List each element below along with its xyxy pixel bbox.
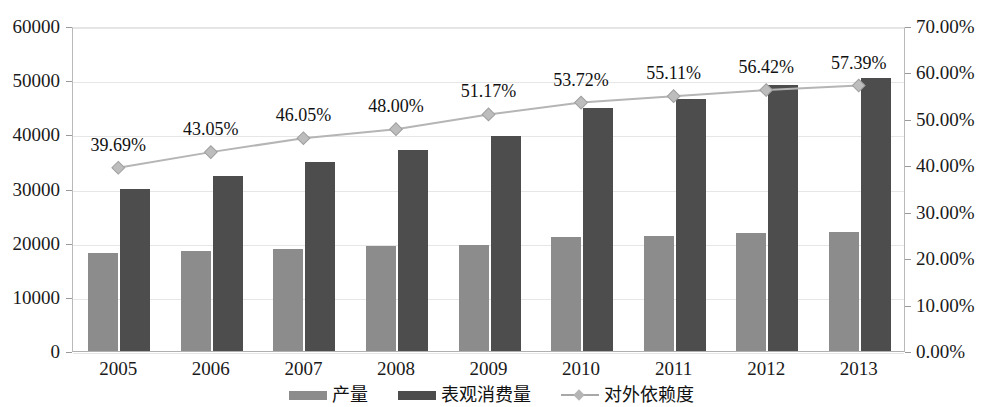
bar-prod-2011 — [644, 236, 674, 351]
right-axis-tick-mark — [905, 259, 911, 260]
gridline — [73, 28, 904, 29]
bar-prod-2006 — [181, 251, 211, 351]
right-axis-tick-mark — [905, 213, 911, 214]
right-axis-tick-mark — [905, 352, 911, 353]
right-axis-tick-mark — [905, 166, 911, 167]
data-label-2008: 48.00% — [351, 97, 441, 115]
category-label-2006: 2006 — [165, 359, 258, 379]
category-label-2010: 2010 — [535, 359, 628, 379]
right-axis-tick-label: 60.00% — [916, 63, 975, 82]
left-axis-tick-mark — [66, 298, 72, 299]
data-label-2007: 46.05% — [258, 106, 348, 124]
bar-prod-2008 — [366, 246, 396, 351]
category-label-2012: 2012 — [720, 359, 813, 379]
data-label-2013: 57.39% — [814, 54, 904, 72]
left-axis-tick-mark — [66, 352, 72, 353]
left-axis-tick-label: 20000 — [13, 234, 61, 253]
bar-prod-2010 — [551, 237, 581, 351]
left-axis-tick-label: 40000 — [13, 125, 61, 144]
right-axis-tick-label: 50.00% — [916, 110, 975, 129]
category-label-2009: 2009 — [442, 359, 535, 379]
category-label-2007: 2007 — [257, 359, 350, 379]
legend-item-dependency[interactable]: 对外依赖度 — [561, 385, 694, 405]
legend-swatch-icon-production — [289, 391, 327, 400]
left-axis-tick-mark — [66, 81, 72, 82]
left-axis-tick-mark — [66, 27, 72, 28]
left-axis-tick-label: 10000 — [13, 288, 61, 307]
bar-cons-2013 — [861, 78, 891, 351]
bar-cons-2010 — [583, 108, 613, 351]
right-axis-tick-label: 40.00% — [916, 156, 975, 175]
left-axis-tick-mark — [66, 244, 72, 245]
chart-legend: 产量 表观消费量 对外依赖度 — [0, 385, 982, 405]
bar-cons-2007 — [305, 162, 335, 351]
right-axis-tick-mark — [905, 27, 911, 28]
right-axis-tick-label: 20.00% — [916, 249, 975, 268]
bar-cons-2012 — [768, 85, 798, 351]
legend-swatch-icon-consumption — [398, 391, 436, 400]
bar-prod-2013 — [829, 232, 859, 351]
legend-label-dependency: 对外依赖度 — [604, 385, 694, 405]
gridline — [73, 353, 904, 354]
chart-container: 0100002000030000400005000060000 0.00%10.… — [0, 0, 982, 407]
left-axis-tick-mark — [66, 190, 72, 191]
bar-cons-2006 — [213, 176, 243, 351]
data-label-2006: 43.05% — [166, 120, 256, 138]
left-axis-tick-label: 30000 — [13, 180, 61, 199]
legend-label-production: 产量 — [332, 385, 368, 405]
bar-prod-2009 — [459, 245, 489, 351]
right-axis-tick-label: 10.00% — [916, 296, 975, 315]
category-label-2005: 2005 — [72, 359, 165, 379]
right-axis-tick-mark — [905, 73, 911, 74]
right-axis-tick-mark — [905, 120, 911, 121]
left-axis-tick-mark — [66, 135, 72, 136]
legend-item-consumption[interactable]: 表观消费量 — [398, 385, 531, 405]
data-label-2010: 53.72% — [536, 71, 626, 89]
right-axis-tick-mark — [905, 306, 911, 307]
data-label-2005: 39.69% — [73, 136, 163, 154]
bar-cons-2011 — [676, 99, 706, 351]
left-axis-tick-label: 50000 — [13, 71, 61, 90]
left-axis-tick-label: 60000 — [13, 17, 61, 36]
category-label-2011: 2011 — [627, 359, 720, 379]
data-label-2009: 51.17% — [444, 82, 534, 100]
data-label-2011: 55.11% — [629, 64, 719, 82]
right-axis-tick-label: 30.00% — [916, 203, 975, 222]
legend-label-consumption: 表观消费量 — [441, 385, 531, 405]
legend-line-marker-icon — [561, 390, 599, 400]
right-axis-tick-label: 70.00% — [916, 17, 975, 36]
left-axis-tick-label: 0 — [51, 342, 61, 361]
bar-prod-2007 — [273, 249, 303, 351]
bar-cons-2009 — [491, 136, 521, 351]
bar-prod-2005 — [88, 253, 118, 351]
legend-item-production[interactable]: 产量 — [289, 385, 368, 405]
data-label-2012: 56.42% — [721, 58, 811, 76]
right-axis-tick-label: 0.00% — [916, 342, 965, 361]
category-label-2013: 2013 — [812, 359, 905, 379]
bar-prod-2012 — [736, 233, 766, 351]
category-label-2008: 2008 — [350, 359, 443, 379]
bar-cons-2008 — [398, 150, 428, 351]
bar-cons-2005 — [120, 189, 150, 352]
